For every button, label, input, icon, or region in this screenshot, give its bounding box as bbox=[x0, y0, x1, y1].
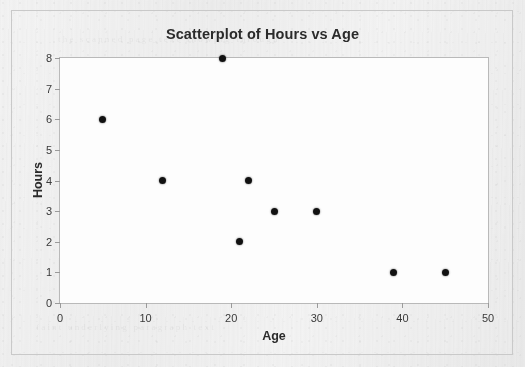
y-axis-tick bbox=[55, 89, 60, 90]
x-axis-tick-label: 0 bbox=[57, 312, 63, 324]
data-point bbox=[313, 208, 320, 215]
scatterplot-figure: the scanned page text showing through fa… bbox=[0, 0, 525, 367]
data-point bbox=[236, 238, 243, 245]
data-point bbox=[442, 269, 449, 276]
x-axis-tick-label: 50 bbox=[482, 312, 494, 324]
x-axis-tick bbox=[146, 303, 147, 308]
y-axis-tick bbox=[55, 181, 60, 182]
x-axis-tick-label: 10 bbox=[139, 312, 151, 324]
y-axis-tick-label: 7 bbox=[46, 83, 52, 95]
y-axis-tick bbox=[55, 150, 60, 151]
y-axis-tick-label: 4 bbox=[46, 175, 52, 187]
y-axis-tick bbox=[55, 119, 60, 120]
y-axis-tick bbox=[55, 242, 60, 243]
y-axis-tick-label: 5 bbox=[46, 144, 52, 156]
y-axis-tick-label: 8 bbox=[46, 52, 52, 64]
y-axis-tick bbox=[55, 272, 60, 273]
y-axis-tick bbox=[55, 211, 60, 212]
y-axis-title: Hours bbox=[31, 162, 45, 198]
x-axis-tick-label: 30 bbox=[311, 312, 323, 324]
plot-inner: 01234567801020304050 bbox=[60, 58, 488, 303]
x-axis-tick bbox=[60, 303, 61, 308]
y-axis-tick-label: 1 bbox=[46, 266, 52, 278]
x-axis-tick bbox=[231, 303, 232, 308]
data-point bbox=[245, 177, 252, 184]
y-axis-tick bbox=[55, 58, 60, 59]
x-axis-tick bbox=[402, 303, 403, 308]
x-axis-tick-label: 40 bbox=[396, 312, 408, 324]
chart-title: Scatterplot of Hours vs Age bbox=[0, 26, 525, 42]
y-axis-tick-label: 3 bbox=[46, 205, 52, 217]
data-point bbox=[219, 55, 226, 62]
x-axis-title: Age bbox=[59, 329, 489, 343]
data-point bbox=[271, 208, 278, 215]
x-axis-tick bbox=[488, 303, 489, 308]
x-axis-tick bbox=[317, 303, 318, 308]
data-point bbox=[99, 116, 106, 123]
data-point bbox=[159, 177, 166, 184]
y-axis-tick-label: 0 bbox=[46, 297, 52, 309]
x-axis-tick-label: 20 bbox=[225, 312, 237, 324]
plot-area: 01234567801020304050 bbox=[59, 57, 489, 304]
y-axis-tick-label: 2 bbox=[46, 236, 52, 248]
y-axis-tick-label: 6 bbox=[46, 113, 52, 125]
data-point bbox=[390, 269, 397, 276]
